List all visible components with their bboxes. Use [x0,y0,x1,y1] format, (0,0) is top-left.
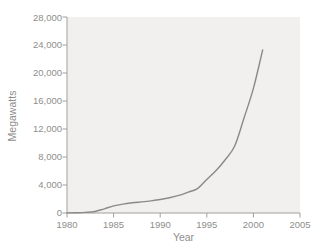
plot-area [67,17,300,213]
y-tick-label: 4,000 [38,179,62,190]
x-tick-label: 2005 [289,219,310,230]
y-tick-marks [63,17,68,213]
x-tick-label: 1985 [103,219,124,230]
x-tick-label: 1990 [150,219,171,230]
x-tick-labels: 1980 1985 1990 1995 2000 2005 [56,219,310,230]
y-axis-title: Megawatts [6,91,18,142]
x-tick-label: 2000 [243,219,264,230]
y-tick-label: 0 [57,207,62,218]
x-tick-label: 1995 [196,219,217,230]
y-tick-label: 12,000 [33,123,62,134]
chart-canvas: 0 4,000 8,000 12,000 16,000 20,000 24,00… [0,0,313,251]
y-tick-label: 8,000 [38,151,62,162]
y-tick-labels: 0 4,000 8,000 12,000 16,000 20,000 24,00… [33,12,62,219]
y-tick-label: 24,000 [33,39,62,50]
y-tick-label: 16,000 [33,95,62,106]
y-tick-label: 28,000 [33,12,62,23]
x-tick-label: 1980 [56,219,77,230]
x-tick-marks [67,213,300,218]
wind-capacity-chart: 0 4,000 8,000 12,000 16,000 20,000 24,00… [0,0,313,251]
x-axis-title: Year [173,231,195,243]
y-tick-label: 20,000 [33,67,62,78]
